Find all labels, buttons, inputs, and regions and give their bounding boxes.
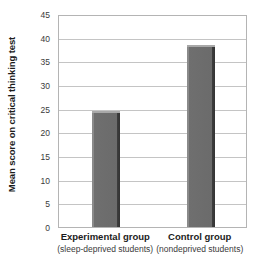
x-axis-category-label: Experimental group(sleep-deprived studen… (57, 230, 153, 256)
gridline (59, 39, 246, 40)
y-axis-tick-labels: 051015202530354045 (24, 15, 54, 228)
y-axis-tick-label: 35 (41, 57, 50, 67)
y-axis-tick-label: 0 (45, 223, 50, 233)
category-sublabel: (nondeprived students) (156, 243, 243, 256)
gridline (59, 62, 246, 63)
bar (92, 111, 120, 227)
bar-chart-figure: Mean score on critical thinking test 051… (0, 0, 262, 267)
y-axis-tick-label: 25 (41, 105, 50, 115)
x-axis-category-labels: Experimental group(sleep-deprived studen… (58, 230, 247, 264)
category-name: Control group (156, 230, 243, 243)
category-name: Experimental group (57, 230, 153, 243)
y-axis-tick-label: 5 (45, 199, 50, 209)
x-axis-category-label: Control group(nondeprived students) (156, 230, 243, 256)
y-axis-tick-label: 40 (41, 34, 50, 44)
gridline (59, 133, 246, 134)
bar (187, 45, 215, 227)
gridline (59, 157, 246, 158)
y-axis-tick-label: 20 (41, 128, 50, 138)
y-axis-title-text: Mean score on critical thinking test (7, 36, 18, 191)
gridline (59, 204, 246, 205)
plot-area (58, 15, 247, 228)
gridline (59, 110, 246, 111)
category-sublabel: (sleep-deprived students) (57, 243, 153, 256)
y-axis-tick-label: 45 (41, 10, 50, 20)
y-axis-tick-label: 10 (41, 176, 50, 186)
y-axis-title: Mean score on critical thinking test (0, 0, 24, 228)
y-axis-tick-label: 15 (41, 152, 50, 162)
gridline (59, 181, 246, 182)
gridline (59, 86, 246, 87)
y-axis-tick-label: 30 (41, 81, 50, 91)
